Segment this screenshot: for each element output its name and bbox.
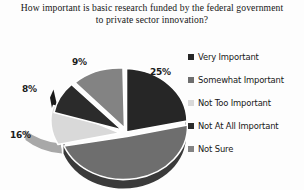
legend-swatch-icon [188,123,194,129]
chart-title-line-2: to private sector innovation? [96,14,208,25]
chart-title: How important is basic research funded b… [0,2,304,26]
legend-item-label: Very Important [198,52,259,62]
legend-swatch-icon [188,54,194,60]
legend-item-very-important[interactable]: Very Important [188,45,304,68]
legend-item-not-at-all-important[interactable]: Not At All Important [188,114,304,137]
chart-title-line-1: How important is basic research funded b… [21,2,283,13]
legend-item-label: Somewhat Important [198,75,284,85]
legend-item-somewhat-important[interactable]: Somewhat Important [188,68,304,91]
legend-swatch-icon [188,100,194,106]
data-label-not-too-important: 16% [10,130,31,140]
pie-svg [0,26,190,190]
legend-swatch-icon [188,146,194,152]
legend-item-not-too-important[interactable]: Not Too Important [188,91,304,114]
pie-plot-area: 25% 42% 16% 8% 9% [0,26,190,190]
chart-legend: Very Important Somewhat Important Not To… [188,45,304,160]
legend-swatch-icon [188,77,194,83]
slice-very-important[interactable] [127,69,188,133]
data-label-not-sure: 9% [72,57,87,67]
data-label-not-at-all-important: 8% [22,84,37,94]
pie-chart-figure: How important is basic research funded b… [0,0,304,190]
legend-item-label: Not Sure [198,144,233,154]
legend-item-label: Not At All Important [198,121,278,131]
data-label-very-important: 25% [150,67,171,77]
legend-item-not-sure[interactable]: Not Sure [188,137,304,160]
legend-item-label: Not Too Important [198,98,271,108]
